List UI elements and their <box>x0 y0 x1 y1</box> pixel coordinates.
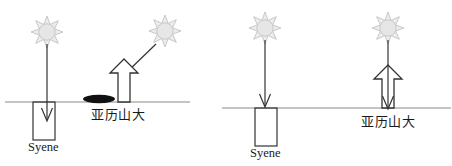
label-alexandria-right: 亚历山大 <box>361 115 415 128</box>
sun-ray-vertical-syene-right <box>260 40 271 107</box>
right-panel <box>222 12 451 146</box>
label-alexandria-left: 亚历山大 <box>91 108 145 121</box>
sun-icon-alexandria-right <box>372 12 404 44</box>
sun-ray-vertical-syene-left <box>42 44 53 121</box>
sun-icon-syene-left <box>31 16 63 48</box>
figure-root: Syene 亚历山大 Syene 亚历山大 <box>0 0 452 166</box>
label-syene-right: Syene <box>250 147 281 160</box>
well-syene-right <box>255 108 277 146</box>
eratosthenes-diagram-svg <box>0 0 452 166</box>
label-syene-left: Syene <box>28 141 59 154</box>
shadow-ellipse-alexandria-left <box>83 95 115 103</box>
well-syene-left <box>33 102 55 140</box>
sun-icon-syene-right <box>249 12 281 44</box>
sun-icon-alexandria-left <box>149 15 181 47</box>
